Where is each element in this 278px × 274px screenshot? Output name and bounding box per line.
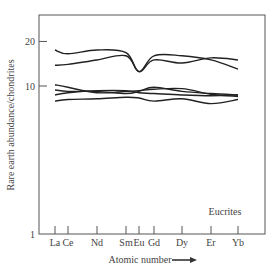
y-axis-ticks: 11020 bbox=[25, 36, 47, 240]
x-axis-ticks: LaCeNdSmEuGdDyErYb bbox=[50, 226, 244, 248]
series-lines bbox=[55, 50, 238, 104]
x-tick-label: Yb bbox=[232, 237, 244, 248]
y-tick-label: 1 bbox=[30, 229, 35, 240]
x-tick-label: La bbox=[50, 237, 61, 248]
y-tick-label: 20 bbox=[25, 36, 35, 47]
x-tick-label: Gd bbox=[148, 237, 160, 248]
y-tick-label: 10 bbox=[25, 81, 35, 92]
x-tick-label: Sm bbox=[119, 237, 133, 248]
x-tick-label: Er bbox=[206, 237, 216, 248]
series-line bbox=[55, 50, 238, 72]
x-tick-label: Eu bbox=[133, 237, 144, 248]
rare-earth-chart: 11020 LaCeNdSmEuGdDyErYb Rare earth abun… bbox=[0, 0, 278, 274]
x-tick-label: Nd bbox=[91, 237, 103, 248]
arrow-icon bbox=[172, 257, 197, 263]
plot-border bbox=[39, 15, 265, 234]
series-line bbox=[55, 85, 238, 97]
y-axis-title: Rare earth abundance/chondrites bbox=[5, 59, 16, 190]
plot-frame bbox=[39, 15, 265, 234]
series-line bbox=[55, 97, 238, 103]
eucrites-annotation: Eucrites bbox=[209, 206, 242, 217]
x-axis-title: Atomic number bbox=[108, 254, 172, 265]
x-tick-label: Ce bbox=[62, 237, 74, 248]
x-tick-label: Dy bbox=[176, 237, 188, 248]
